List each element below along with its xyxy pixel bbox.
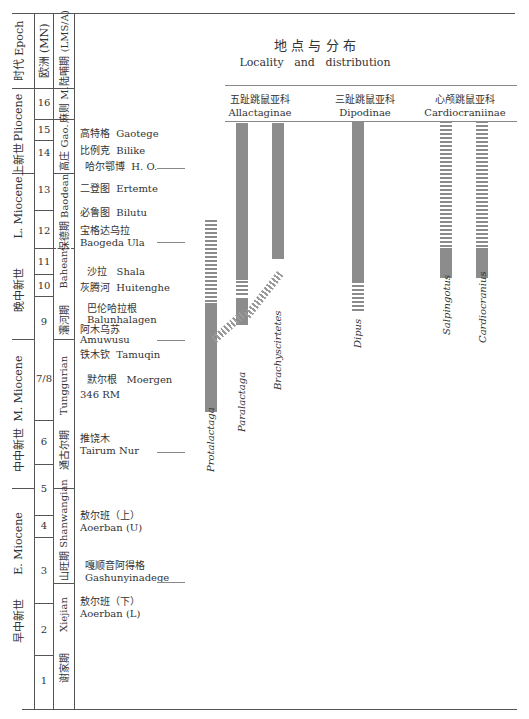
mn-divider bbox=[34, 655, 53, 656]
boundary-marker bbox=[157, 452, 185, 453]
locality-bilutu: 必鲁图 Bilutu bbox=[80, 207, 147, 219]
mn-zone: 12 bbox=[32, 225, 56, 236]
mn-divider bbox=[34, 537, 53, 538]
lms-bahean: Bahean bbox=[58, 245, 69, 295]
bottom-border bbox=[22, 709, 517, 710]
mn-divider bbox=[34, 210, 53, 211]
range-bar-salpingotus-inferred bbox=[440, 121, 452, 247]
mn-zone: 13 bbox=[32, 184, 56, 195]
epoch-late-miocene-cn: 晚中新世 bbox=[10, 260, 26, 320]
locality-moergen: 默尔根 Moergen bbox=[87, 374, 172, 386]
epoch-early-miocene: E. Miocene bbox=[12, 509, 25, 579]
mn-divider bbox=[34, 296, 53, 297]
locality-aoerban-upper: 敖尔班（上）Aoerban (U) bbox=[80, 510, 142, 534]
lms-bahean-cn: 灞河期 bbox=[56, 295, 71, 345]
mn-zone: 16 bbox=[32, 97, 56, 108]
subfamily-dipodinae: 三趾跳鼠亚科 Dipodinae bbox=[325, 93, 405, 119]
subfamily-cn: 五趾跳鼠亚科 bbox=[215, 93, 305, 106]
mn-zone: 6 bbox=[32, 436, 56, 447]
boundary-marker bbox=[157, 582, 185, 583]
range-bar-protalactaga bbox=[205, 303, 217, 412]
locality-tamuqin: 铁木钦 Tamuqin bbox=[80, 349, 160, 361]
locality-gaotege: 高特格 Gaotege bbox=[80, 128, 159, 140]
mn-zone: 2 bbox=[32, 624, 56, 635]
boundary-marker bbox=[157, 168, 185, 169]
col-divider-2 bbox=[53, 13, 54, 709]
epoch-middle-miocene: M. Miocene bbox=[12, 354, 25, 424]
locality-ertemte: 二登图 Ertemte bbox=[80, 183, 158, 195]
title-cn: 地 点 与 分 布 bbox=[240, 35, 390, 54]
subfamily-cn: 心颅跳鼠亚科 bbox=[420, 93, 510, 106]
col-divider-3 bbox=[74, 13, 75, 709]
top-border bbox=[12, 13, 515, 14]
taxon-label-protalactaga: Protalactaga bbox=[205, 407, 216, 472]
range-bar-protalactaga-inferred bbox=[205, 220, 217, 302]
mn-zone: 7/8 bbox=[32, 373, 56, 384]
lms-baodean: 保德期 Baodean bbox=[56, 173, 71, 253]
boundary-marker bbox=[157, 242, 185, 243]
mn-divider bbox=[34, 119, 53, 120]
epoch-early-miocene-cn: 早中新世 bbox=[10, 591, 26, 651]
mn-zone: 9 bbox=[32, 316, 56, 327]
mn-divider bbox=[34, 464, 53, 465]
taxon-label-dipus: Dipus bbox=[352, 319, 363, 348]
mn-zone: 14 bbox=[32, 147, 56, 158]
subfamily-top-line bbox=[225, 85, 517, 86]
locality-amuwusu: 阿木乌苏Amuwusu bbox=[80, 325, 130, 345]
mn-divider bbox=[34, 603, 53, 604]
lms-header: 陆哺期 (LMS/A) bbox=[56, 16, 71, 86]
locality-balunhalagen: 巴伦哈拉根Balunhalagen bbox=[87, 303, 157, 325]
subfamily-en: Cardiocraniinae bbox=[420, 106, 510, 119]
locality-tairum-nur: 推饶木Tairum Nur bbox=[80, 433, 139, 457]
lms-shanwangian: Shanwangian bbox=[58, 479, 69, 549]
mn-zone: 15 bbox=[32, 124, 56, 135]
title-en: Locality and distribution bbox=[225, 56, 405, 69]
locality-huitenghe: 灰腾河 Huitenghe bbox=[80, 282, 170, 294]
mn-divider bbox=[34, 420, 53, 421]
mn-zone: 3 bbox=[32, 565, 56, 576]
epoch-middle-miocene-cn: 中中新世 bbox=[10, 420, 26, 480]
subfamily-cn: 三趾跳鼠亚科 bbox=[325, 93, 405, 106]
lms-xiejian-cn: 谢家期 bbox=[56, 643, 71, 693]
locality-bilike: 比例克 Bilike bbox=[80, 145, 145, 157]
mn-header: 欧洲 (MN) bbox=[35, 16, 51, 86]
mn-divider bbox=[34, 274, 53, 275]
epoch-header: 时代 Epoch bbox=[10, 16, 26, 86]
range-bar-dipus bbox=[352, 121, 364, 281]
epoch-late-miocene: L. Miocene bbox=[12, 173, 25, 243]
mn-zone: 10 bbox=[32, 280, 56, 291]
locality-shala: 沙拉 Shala bbox=[87, 266, 145, 278]
locality-aoerban-lower: 敖尔班（下）Aoerban (L) bbox=[80, 596, 140, 620]
lms-tunggurian: Tunggurian bbox=[58, 351, 69, 421]
boundary-marker bbox=[157, 340, 185, 341]
epoch-divider bbox=[12, 339, 34, 340]
subfamily-bottom-line bbox=[225, 121, 517, 122]
subfamily-en: Allactaginae bbox=[215, 106, 305, 119]
taxon-label-paralactaga: Paralactaga bbox=[236, 372, 247, 432]
taxon-label-cardiocranius: Cardiocranius bbox=[477, 271, 488, 343]
range-bar-dipus-inferred bbox=[352, 281, 364, 311]
range-bar-cardiocranius-inferred bbox=[476, 121, 488, 247]
locality-gashunyinadege: 嘎顺音阿得格Gashunyinadege bbox=[85, 560, 169, 584]
range-bar-paralactaga-inferred bbox=[236, 281, 248, 297]
lms-tunggurian-cn: 通古尔期 bbox=[56, 420, 71, 480]
mn-divider bbox=[34, 248, 53, 249]
taxon-label-brachyscirtetes: Brachyscirtetes bbox=[272, 311, 283, 391]
range-bar-brachyscirtetes bbox=[272, 123, 284, 259]
taxon-label-salpingotus: Salpingotus bbox=[441, 275, 452, 335]
mn-zone: 1 bbox=[32, 675, 56, 686]
locality-346rm: 346 RM bbox=[80, 389, 120, 401]
locality-ho: 哈尔鄂博 H. O. bbox=[85, 161, 157, 173]
mn-zone: 4 bbox=[32, 520, 56, 531]
lms-shanwangian-cn: 山旺期 bbox=[56, 541, 71, 591]
col-divider-1 bbox=[34, 13, 35, 709]
epoch-divider bbox=[12, 488, 34, 489]
lms-gaozhuang: 高庄 Gao. bbox=[56, 123, 71, 173]
subfamily-allactaginae: 五趾跳鼠亚科 Allactaginae bbox=[215, 93, 305, 119]
subfamily-en: Dipodinae bbox=[325, 106, 405, 119]
mn-zone: 11 bbox=[32, 256, 56, 267]
range-bar-paralactaga bbox=[236, 123, 248, 280]
mn-divider bbox=[34, 140, 53, 141]
locality-baogeda-ula: 宝格达乌拉Baogeda Ula bbox=[80, 225, 145, 249]
mn-divider bbox=[34, 515, 53, 516]
